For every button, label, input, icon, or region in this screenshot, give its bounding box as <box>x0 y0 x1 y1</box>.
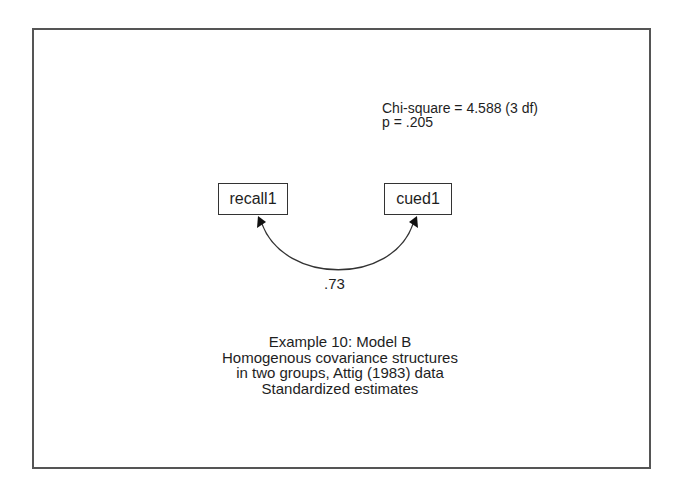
p-value-text: p = .205 <box>382 115 538 129</box>
variable-box-cued1: cued1 <box>384 183 452 215</box>
diagram-frame <box>32 28 651 469</box>
chi-square-text: Chi-square = 4.588 (3 df) <box>382 101 538 115</box>
caption-line-1: Example 10: Model B <box>180 334 500 350</box>
covariance-estimate: .73 <box>324 276 345 292</box>
variable-box-recall1: recall1 <box>218 183 288 215</box>
fit-statistics: Chi-square = 4.588 (3 df) p = .205 <box>382 101 538 129</box>
caption-line-3: in two groups, Attig (1983) data <box>180 365 500 381</box>
diagram-caption: Example 10: Model B Homogenous covarianc… <box>180 334 500 396</box>
caption-line-4: Standardized estimates <box>180 381 500 397</box>
caption-line-2: Homogenous covariance structures <box>180 350 500 366</box>
variable-label-recall1: recall1 <box>229 190 276 208</box>
variable-label-cued1: cued1 <box>396 190 440 208</box>
